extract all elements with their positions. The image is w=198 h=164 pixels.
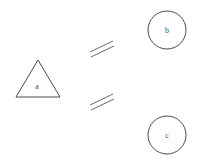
congruence-tick-upper-1 <box>90 41 113 52</box>
relation-mark-a-c <box>90 94 114 110</box>
node-c[interactable]: c <box>148 116 186 154</box>
triangle-shape-a[interactable] <box>16 60 60 97</box>
node-a[interactable]: a <box>16 60 60 97</box>
diagram-svg: a b c <box>0 0 198 164</box>
congruence-tick-lower-2 <box>91 99 114 110</box>
diagram-canvas: a b c <box>0 0 198 164</box>
node-label-b: b <box>165 26 169 35</box>
relation-mark-a-b <box>90 41 114 57</box>
node-label-c: c <box>165 131 169 140</box>
node-b[interactable]: b <box>148 11 186 49</box>
congruence-tick-upper-2 <box>91 46 114 57</box>
node-label-a: a <box>35 82 39 91</box>
congruence-tick-lower-1 <box>90 94 113 105</box>
